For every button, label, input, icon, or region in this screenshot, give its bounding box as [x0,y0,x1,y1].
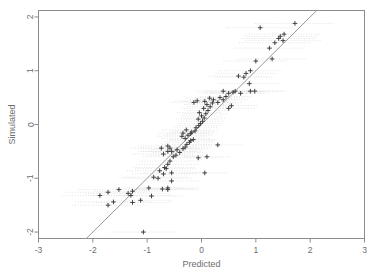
plot-canvas: -3-2-10123-2-1012PredictedSimulated [0,0,376,280]
data-point [238,91,243,96]
data-point [157,168,162,173]
data-point [184,128,189,133]
scatter-plot-figure: -3-2-10123-2-1012PredictedSimulated [0,0,376,280]
data-point [226,91,231,96]
data-point [177,150,182,155]
data-point [166,162,171,167]
data-point [196,117,201,122]
data-point [138,198,143,203]
data-point [169,171,174,176]
y-tick-label: -1 [26,174,36,182]
data-point [202,171,207,176]
data-point [252,89,257,94]
data-point [194,125,199,130]
data-point [204,111,209,116]
data-point [98,193,103,198]
data-point [293,21,298,26]
data-point [156,176,161,181]
data-point [181,131,186,136]
data-point [196,156,201,161]
x-tick-label: 0 [199,245,204,255]
data-point [111,200,116,205]
data-point [282,32,287,37]
data-point [248,89,253,94]
data-point [161,172,166,177]
y-axis: -2-1012 [26,14,39,236]
x-tick-label: -2 [89,245,97,255]
y-tick-label: -2 [26,228,36,236]
data-point [208,104,213,109]
data-point [231,90,236,95]
data-point [197,110,202,115]
data-point [168,159,173,164]
data-point [206,108,211,113]
data-point [226,106,231,111]
data-point [205,154,210,159]
data-point [218,95,223,100]
y-axis-title: Simulated [7,104,17,144]
data-point [236,74,241,79]
x-tick-label: -3 [35,245,43,255]
x-axis-title: Predicted [182,259,220,269]
x-tick-label: 2 [308,245,313,255]
data-point [267,46,272,51]
data-point [216,143,221,148]
data-point [161,152,166,157]
data-point [273,40,278,45]
data-point [183,136,188,141]
x-tick-label: 1 [253,245,258,255]
y-tick-label: 2 [26,14,36,19]
data-point [151,175,156,180]
data-point [270,57,275,62]
data-point [160,187,165,192]
data-point [199,114,204,119]
data-point [248,68,253,73]
data-point [166,144,171,149]
data-point [244,71,249,76]
data-point [229,103,234,108]
data-point [247,81,252,86]
data-point [221,89,226,94]
data-point [254,59,259,64]
data-point [258,25,263,30]
data-point [129,193,134,198]
data-point [242,75,247,80]
data-point [205,102,210,107]
data-point [130,200,135,205]
data-point [141,230,146,235]
data-point [191,137,196,142]
data-point [180,134,185,139]
reference-line [86,11,316,239]
data-point [106,203,111,208]
data-point [169,179,174,184]
y-tick-label: 0 [26,122,36,127]
y-tick-label: 1 [26,68,36,73]
x-tick-label: -1 [143,245,151,255]
x-tick-label: 3 [362,245,367,255]
data-point [106,190,111,195]
data-point [149,194,154,199]
x-axis: -3-2-10123 [35,239,367,255]
